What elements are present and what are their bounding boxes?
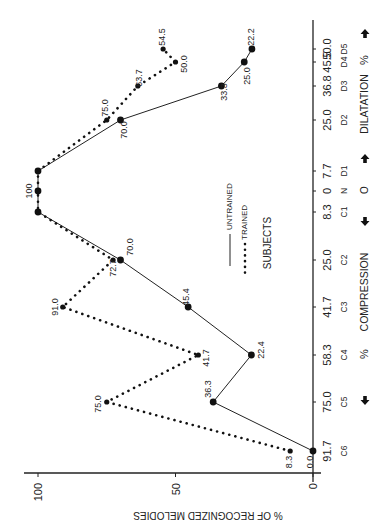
data-point-label: 75.0 bbox=[93, 395, 103, 413]
category-code-label: C3 bbox=[339, 301, 349, 312]
category-code-label: C2 bbox=[339, 254, 349, 265]
legend-trained-label: TRAINED bbox=[240, 205, 249, 240]
trained-marker bbox=[104, 399, 109, 404]
data-point-label: 45.4 bbox=[181, 288, 191, 306]
compression-percent-label: % bbox=[358, 349, 370, 359]
category-code-label: D5 bbox=[339, 43, 349, 54]
axis-annotations: %DILATATIONOCOMPRESSION%% OF RECOGNIZED … bbox=[133, 29, 370, 521]
trained-marker bbox=[196, 352, 201, 357]
compression-label: COMPRESSION bbox=[358, 253, 370, 332]
category-percent-label: 50.0 bbox=[321, 38, 333, 59]
value-axis-title: % OF RECOGNIZED MELODIES bbox=[133, 510, 283, 521]
compression-arrow-down-icon bbox=[361, 396, 370, 405]
data-point-label: 41.7 bbox=[201, 349, 211, 367]
data-point-label: 72.7 bbox=[108, 259, 118, 277]
dilatation-percent-label: % bbox=[358, 55, 370, 65]
category-code-label: C5 bbox=[339, 396, 349, 407]
data-point-label: 50.0 bbox=[179, 55, 189, 73]
category-code-label: D4 bbox=[339, 56, 349, 67]
category-percent-label: 25.0 bbox=[321, 249, 333, 270]
category-percent-label: 75.0 bbox=[321, 391, 333, 412]
category-code-label: D2 bbox=[339, 114, 349, 125]
value-tick-label: 0 bbox=[307, 483, 319, 489]
legend-untrained-label: UNTRAINED bbox=[225, 183, 234, 230]
value-tick-label: 50 bbox=[170, 483, 182, 495]
trained-marker bbox=[60, 304, 65, 309]
legend-title: SUBJECTS bbox=[262, 217, 273, 270]
trained-marker bbox=[173, 59, 178, 64]
data-point-label: 54.5 bbox=[157, 28, 167, 46]
trained-marker bbox=[35, 168, 40, 173]
untrained-marker bbox=[248, 352, 255, 359]
category-code-label: D3 bbox=[339, 80, 349, 91]
untrained-marker bbox=[310, 448, 317, 455]
data-point-label: 70.0 bbox=[119, 121, 129, 139]
axes: 05010091.7C675.0C558.3C441.7C325.0C28.3C… bbox=[24, 20, 349, 501]
origin-label: O bbox=[359, 186, 370, 194]
data-point-label: 91.0 bbox=[50, 298, 60, 316]
melody-recognition-chart: 05010091.7C675.0C558.3C441.7C325.0C28.3C… bbox=[0, 0, 378, 532]
data-point-label: 63.7 bbox=[134, 69, 144, 87]
data-point-label: 33.3 bbox=[219, 83, 229, 101]
data-point-label: 25.0 bbox=[242, 67, 252, 85]
category-percent-label: 7.7 bbox=[321, 163, 333, 178]
trained-marker bbox=[104, 117, 109, 122]
trained-marker bbox=[35, 188, 40, 193]
category-percent-label: 91.7 bbox=[321, 440, 333, 461]
trained-marker bbox=[161, 46, 166, 51]
category-code-label: C4 bbox=[339, 349, 349, 360]
trained-marker bbox=[288, 448, 293, 453]
series-lines bbox=[35, 46, 317, 455]
data-point-label: 75.0 bbox=[100, 99, 110, 117]
category-code-label: D1 bbox=[339, 165, 349, 176]
untrained-marker bbox=[210, 399, 217, 406]
trained-line bbox=[38, 49, 290, 451]
dilatation-arrow-up-icon bbox=[361, 29, 370, 38]
data-point-label: 36.3 bbox=[203, 380, 213, 398]
category-percent-label: 41.7 bbox=[321, 296, 333, 317]
category-code-label: C6 bbox=[339, 445, 349, 456]
dilatation-arrow-up-icon bbox=[361, 154, 370, 163]
compression-arrow-down-icon bbox=[361, 217, 370, 226]
category-percent-label: 0 bbox=[321, 188, 333, 194]
dilatation-label: DILATATION bbox=[358, 74, 370, 134]
data-point-label: 22.4 bbox=[256, 341, 266, 359]
data-point-label: 8.3 bbox=[284, 456, 294, 469]
value-tick-label: 100 bbox=[32, 483, 44, 501]
category-code-label: C1 bbox=[339, 206, 349, 217]
trained-marker bbox=[35, 209, 40, 214]
category-percent-label: 8.3 bbox=[321, 204, 333, 219]
data-point-label: 100 bbox=[24, 183, 34, 198]
data-point-label: 70.0 bbox=[125, 238, 135, 256]
category-percent-label: 58.3 bbox=[321, 344, 333, 365]
untrained-marker bbox=[241, 59, 248, 66]
category-percent-label: 36.8 bbox=[321, 75, 333, 96]
legend: UNTRAINEDTRAINEDSUBJECTS bbox=[225, 183, 273, 278]
category-percent-label: 25.0 bbox=[321, 109, 333, 130]
category-code-label: N bbox=[339, 188, 349, 194]
data-point-label: 22.2 bbox=[246, 28, 256, 46]
data-point-label: 0.0 bbox=[305, 456, 315, 469]
